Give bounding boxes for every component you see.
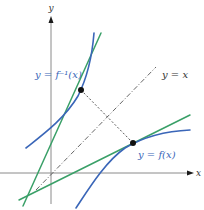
function-label: y = f(x)	[137, 149, 176, 160]
identity-line	[36, 67, 156, 190]
point-on-f-inverse	[78, 87, 84, 93]
x-axis-arrow-icon	[187, 171, 194, 176]
inverse-function-diagram: y x y = x y = f⁻¹(x) y = f(x)	[0, 0, 204, 210]
identity-line-label: y = x	[161, 69, 188, 80]
x-axis-label: x	[196, 168, 201, 178]
y-axis-label: y	[48, 3, 55, 13]
inverse-function-label: y = f⁻¹(x)	[34, 69, 82, 80]
reflection-segment	[81, 90, 133, 143]
y-axis-arrow-icon	[49, 16, 54, 23]
point-on-f	[130, 140, 136, 146]
tangent-line-f-inverse	[23, 33, 101, 206]
